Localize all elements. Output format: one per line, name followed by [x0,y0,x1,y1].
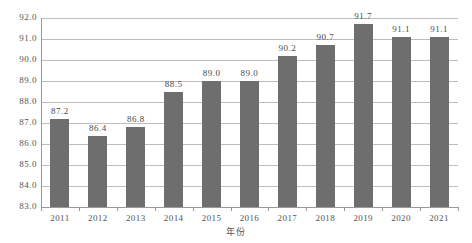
y-axis-tick-label: 87.0 [3,118,37,127]
x-axis-tick-label: 2020 [382,213,420,223]
x-axis-tick-label: 2011 [41,213,79,223]
x-axis-tick-label: 2018 [306,213,344,223]
x-axis-tick-mark [458,207,459,211]
bar-value-label: 89.0 [203,69,221,78]
bar[interactable] [202,81,221,207]
bar[interactable] [126,127,145,207]
x-axis-tick-mark [344,207,345,211]
bar[interactable] [316,45,335,207]
bar-chart: 92.091.090.089.088.087.086.085.084.083.0… [0,0,472,243]
x-axis-tick-label: 2012 [79,213,117,223]
x-axis-tick-mark [41,207,42,211]
x-axis-tick-labels: 2011201220132014201520162017201820192020… [41,213,458,223]
y-axis-tick-label: 88.0 [3,97,37,106]
bar[interactable] [354,24,373,207]
x-axis-title: 年份 [0,227,472,237]
bar-value-label: 90.2 [279,44,297,53]
x-axis-tick-mark [117,207,118,211]
x-axis-tick-mark [306,207,307,211]
bar-slot: 91.1 [420,18,458,207]
y-axis-tick-label: 91.0 [3,34,37,43]
x-axis-tick-mark [420,207,421,211]
bar[interactable] [392,37,411,207]
bar-slot: 90.2 [268,18,306,207]
bar[interactable] [240,81,259,207]
x-axis-tick-label: 2014 [155,213,193,223]
y-axis-tick-label: 92.0 [3,13,37,22]
bar-slot: 89.0 [193,18,231,207]
bar-value-label: 87.2 [51,107,69,116]
y-axis-tick-label: 85.0 [3,160,37,169]
bar-slot: 91.7 [344,18,382,207]
bar-value-label: 89.0 [241,69,259,78]
bar-slot: 90.7 [306,18,344,207]
bar-value-label: 86.8 [127,115,145,124]
bar-slot: 86.4 [79,18,117,207]
bar-slot: 89.0 [231,18,269,207]
y-axis-tick-label: 83.0 [3,202,37,211]
bar-value-label: 86.4 [89,124,107,133]
bar-value-label: 91.1 [430,25,448,34]
bar-slot: 87.2 [41,18,79,207]
x-axis-tick-label: 2015 [193,213,231,223]
x-axis-tick-mark [193,207,194,211]
x-axis-tick-mark [231,207,232,211]
x-axis-tick-mark [268,207,269,211]
bar[interactable] [278,56,297,207]
bar-value-label: 88.5 [165,80,183,89]
y-axis-tick-label: 86.0 [3,139,37,148]
bar-slot: 91.1 [382,18,420,207]
bar[interactable] [430,37,449,207]
x-axis-tick-label: 2017 [268,213,306,223]
x-axis-tick-label: 2019 [344,213,382,223]
bar[interactable] [50,119,69,207]
bars-layer: 87.286.486.888.589.089.090.290.791.791.1… [41,18,458,207]
y-axis-tick-label: 84.0 [3,181,37,190]
bar-value-label: 91.7 [354,12,372,21]
x-axis-tick-mark [79,207,80,211]
x-axis-tick-mark [155,207,156,211]
bar-value-label: 90.7 [316,33,334,42]
x-axis-tick-marks [41,207,458,212]
bar[interactable] [164,92,183,208]
bar[interactable] [88,136,107,207]
x-axis-tick-mark [382,207,383,211]
y-axis-tick-labels: 92.091.090.089.088.087.086.085.084.083.0 [0,0,37,243]
bar-slot: 86.8 [117,18,155,207]
y-axis-tick-label: 89.0 [3,76,37,85]
x-axis-tick-label: 2016 [231,213,269,223]
x-axis-tick-label: 2013 [117,213,155,223]
y-axis-tick-label: 90.0 [3,55,37,64]
bar-slot: 88.5 [155,18,193,207]
x-axis-tick-label: 2021 [420,213,458,223]
bar-value-label: 91.1 [392,25,410,34]
